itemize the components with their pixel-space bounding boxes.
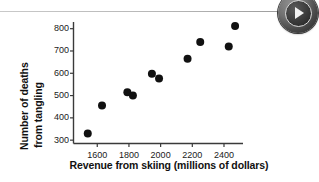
x-axis-title: Revenue from skiing (millions of dollars… [44, 159, 294, 171]
y-axis-tick-label: 300 [47, 135, 69, 145]
x-axis-tick-label: 2400 [209, 150, 239, 160]
data-point [129, 92, 137, 100]
y-axis-tick-label: 700 [47, 45, 69, 55]
data-point [155, 74, 163, 82]
x-axis-tick-label: 2200 [177, 150, 207, 160]
x-axis-tick-label: 1600 [82, 150, 112, 160]
y-axis-tick-label: 400 [47, 112, 69, 122]
data-point [184, 55, 192, 63]
y-axis-tick-label: 500 [47, 90, 69, 100]
data-point [84, 129, 92, 137]
y-axis-tick-label: 600 [47, 68, 69, 78]
x-axis-tick-label: 2000 [146, 150, 176, 160]
screenshot-root: Number of deaths from tangling 300400500… [0, 0, 319, 182]
data-point [148, 70, 156, 78]
axes [74, 22, 244, 144]
data-point [231, 22, 239, 30]
data-point [98, 102, 106, 110]
x-axis-tick-label: 1800 [114, 150, 144, 160]
y-axis-tick-label: 800 [47, 23, 69, 33]
data-point [196, 38, 204, 46]
data-point [225, 43, 233, 51]
data-point-group [84, 22, 239, 137]
top-divider [0, 11, 296, 12]
scatterplot: Number of deaths from tangling 300400500… [0, 14, 319, 182]
